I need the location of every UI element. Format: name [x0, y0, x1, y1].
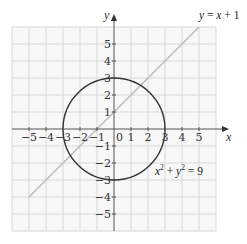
y-tick-label: 4 — [104, 55, 111, 68]
x-tick-label: −5 — [21, 131, 37, 144]
x-tick-label: 3 — [162, 131, 169, 144]
x-tick-label: −4 — [38, 131, 54, 144]
y-tick-label: 2 — [104, 89, 111, 102]
y-axis-label: y — [103, 8, 110, 22]
y-tick-label: −2 — [95, 157, 111, 170]
y-tick-label: 1 — [104, 106, 111, 119]
x-tick-label: −3 — [55, 131, 71, 144]
coordinate-plane: −5−4−3−2−112345 54321−1−2−3−4−5 0 x y y … — [0, 0, 247, 244]
x-tick-label: 2 — [145, 131, 152, 144]
x-tick-label: −2 — [72, 131, 88, 144]
y-tick-label: 3 — [104, 72, 111, 85]
y-tick-label: −1 — [95, 140, 111, 153]
y-tick-label: −5 — [95, 208, 111, 221]
y-axis-arrow-icon — [111, 14, 117, 21]
line-equation-label: y = x + 1 — [198, 9, 240, 22]
x-tick-label: 4 — [179, 131, 186, 144]
x-axis-label: x — [225, 130, 232, 144]
y-tick-label: −4 — [95, 191, 111, 204]
y-tick-label: −3 — [95, 174, 111, 187]
x-tick-label: 5 — [196, 131, 203, 144]
x-tick-label: 1 — [128, 131, 135, 144]
origin-label: 0 — [116, 131, 123, 144]
y-tick-label: 5 — [104, 38, 111, 51]
